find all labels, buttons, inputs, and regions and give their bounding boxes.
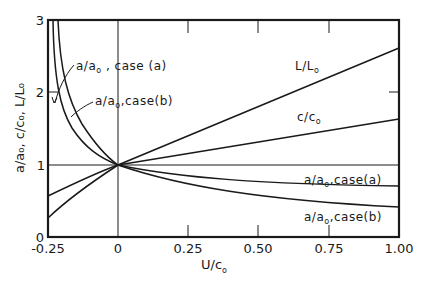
svg-text:0.75: 0.75 (315, 241, 344, 256)
svg-text:0.25: 0.25 (174, 241, 203, 256)
svg-text:0: 0 (36, 230, 44, 245)
svg-text:2: 2 (36, 85, 44, 100)
label-c-co: c/co (297, 110, 321, 126)
curves (48, 20, 399, 218)
x-axis-label: U/co (201, 257, 227, 275)
svg-text:3: 3 (36, 13, 44, 28)
chart: -0.25 0 0.25 0.50 0.75 1.00 0 1 2 3 U/co… (0, 0, 436, 283)
label-case-a-upper: a/ao , case (a) (76, 59, 167, 75)
svg-text:1.00: 1.00 (385, 241, 414, 256)
label-case-b-upper: a/ao,case(b) (95, 94, 173, 110)
label-case-b-right: a/ao,case(b) (304, 210, 382, 226)
svg-text:1: 1 (37, 158, 45, 173)
label-L-Lo: L/Lo (295, 59, 319, 75)
svg-text:0: 0 (114, 241, 122, 256)
y-tick-labels: 0 1 2 3 (36, 13, 45, 245)
label-case-a-right: a/ao,case(a) (304, 173, 382, 189)
x-tick-labels: -0.25 0 0.25 0.50 0.75 1.00 (31, 241, 413, 256)
y-axis-label: a/a₀, c/c₀, L/L₀ (12, 83, 27, 173)
svg-text:0.50: 0.50 (244, 241, 273, 256)
